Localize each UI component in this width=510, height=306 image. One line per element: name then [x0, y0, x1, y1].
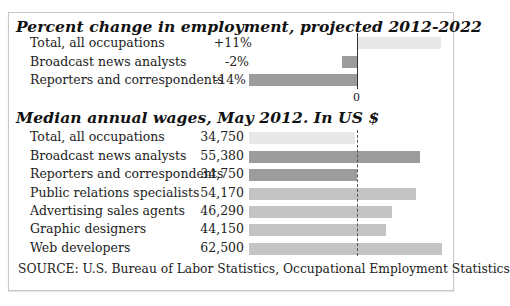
reference-line-total-wage — [357, 130, 358, 256]
chart2-row-label: Total, all occupations — [30, 129, 165, 144]
chart2-bar — [249, 132, 355, 144]
chart1-row-label: Total, all occupations — [30, 35, 165, 50]
chart2-bar — [249, 206, 392, 218]
chart2-row-label: Public relations specialists — [30, 185, 199, 200]
chart2-row-value: 46,290 — [190, 203, 244, 218]
zero-axis-line — [357, 33, 358, 89]
chart2-bar — [249, 169, 357, 181]
zero-axis-label: 0 — [353, 91, 360, 104]
chart2-row-label: Advertising sales agents — [30, 203, 185, 218]
chart1-row-value: -2% — [200, 54, 249, 69]
chart2-row-label: Graphic designers — [30, 221, 146, 236]
chart1-bar-reporters — [249, 74, 357, 86]
chart2-row-label: Web developers — [30, 240, 130, 255]
chart1-bar-total — [358, 37, 441, 49]
chart2-bar — [249, 151, 420, 163]
chart2-row-value: 44,150 — [190, 221, 244, 236]
chart2-row-value: 62,500 — [190, 240, 244, 255]
chart1-row-label: Reporters and correspondents — [30, 72, 223, 87]
chart2-bar — [249, 243, 442, 255]
chart2-row-label: Broadcast news analysts — [30, 148, 186, 163]
chart1-title: Percent change in employment, projected … — [16, 17, 482, 36]
chart2-bar — [249, 188, 416, 200]
chart2-title: Median annual wages, May 2012. In US $ — [16, 108, 379, 127]
chart1-row-label: Broadcast news analysts — [30, 54, 186, 69]
source-note: SOURCE: U.S. Bureau of Labor Statistics,… — [18, 262, 510, 276]
chart2-row-value: 34,750 — [190, 129, 244, 144]
chart2-row-value: 55,380 — [190, 148, 244, 163]
chart1-row-value: -14% — [200, 72, 246, 87]
chart2-row-value: 54,170 — [190, 185, 244, 200]
chart2-bar — [249, 224, 386, 236]
chart1-bar-broadcast — [342, 56, 357, 68]
chart2-row-value: 34,750 — [190, 166, 244, 181]
chart1-row-value: +11% — [200, 35, 252, 50]
